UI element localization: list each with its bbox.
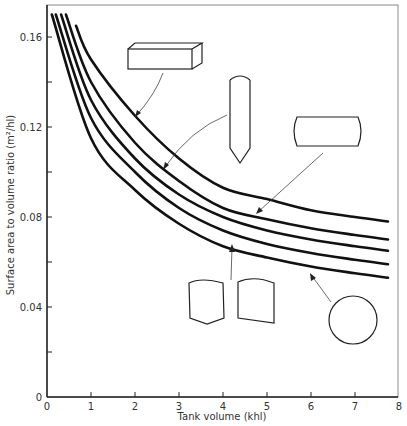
sphere-icon — [329, 296, 377, 344]
x-tick-label: 0 — [44, 401, 50, 412]
arrow-conical — [165, 115, 227, 167]
plot-frame — [47, 5, 398, 397]
x-tick-label: 1 — [88, 401, 94, 412]
x-tick-label: 6 — [308, 401, 314, 412]
axis-ticks — [47, 37, 355, 397]
y-axis-title: Surface area to volume ratio (m²/hl) — [5, 115, 16, 296]
curve-line — [66, 15, 388, 240]
curve-line — [56, 15, 388, 265]
curve-line — [76, 26, 388, 222]
tick-labels: 01234567800.040.080.120.16 — [20, 32, 402, 412]
x-axis-title: Tank volume (khl) — [177, 411, 267, 422]
y-tick-label: 0.12 — [20, 122, 42, 133]
chart: 01234567800.040.080.120.16 Tank volume (… — [0, 0, 407, 426]
y-tick-label: 0.04 — [20, 302, 42, 313]
horizontal-cylinder-icon — [294, 117, 361, 146]
x-tick-label: 2 — [132, 401, 138, 412]
y-tick-label: 0.16 — [20, 32, 42, 43]
x-tick-label: 8 — [396, 401, 402, 412]
vertical-cylinders-icon — [189, 279, 274, 324]
arrow-sphere — [312, 276, 331, 302]
y-tick-label: 0.08 — [20, 212, 42, 223]
conical-cylinder-icon — [230, 76, 250, 163]
box-tank-icon — [128, 43, 202, 69]
x-tick-label: 7 — [352, 401, 358, 412]
arrow-box — [135, 73, 163, 117]
arrow-horizontal — [258, 153, 323, 212]
y-tick-label: 0 — [36, 392, 42, 403]
